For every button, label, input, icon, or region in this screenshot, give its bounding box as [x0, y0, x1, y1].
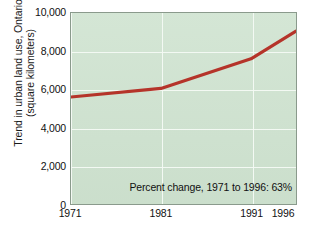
y-axis-tick-label: 4,000 [4, 122, 66, 134]
x-axis-tick-label: 1991 [240, 207, 263, 219]
percent-change-annotation: Percent change, 1971 to 1996: 63% [129, 181, 292, 193]
line-chart-figure: Trend in urban land use, Ontario (square… [0, 0, 309, 238]
x-axis-tick-label: 1981 [150, 207, 173, 219]
y-axis-tick-label: 6,000 [4, 83, 66, 95]
y-axis-tick-label: 0 [4, 199, 66, 211]
y-axis-tick-labels: 10,0008,0006,0004,0002,0000 [0, 0, 66, 238]
plot-area: Percent change, 1971 to 1996: 63% [70, 12, 297, 205]
x-axis-tick-labels: 1971198119911996 [70, 207, 297, 225]
x-axis-tick-label: 1971 [59, 207, 82, 219]
y-axis-tick-label: 10,000 [4, 6, 66, 18]
y-axis-tick-label: 8,000 [4, 45, 66, 57]
data-series-line [71, 13, 296, 204]
x-axis-tick-label: 1996 [272, 207, 295, 219]
y-axis-tick-label: 2,000 [4, 160, 66, 172]
